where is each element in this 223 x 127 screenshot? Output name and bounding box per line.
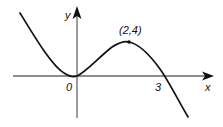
function-curve [20, 13, 188, 117]
origin-label: 0 [66, 81, 73, 93]
root-label-3: 3 [155, 81, 162, 93]
local-max-point [127, 40, 131, 44]
x-axis-label: x [204, 81, 211, 93]
cubic-function-graph: y x 0 3 (2,4) [0, 0, 223, 127]
local-max-label: (2,4) [119, 24, 142, 36]
y-axis-label: y [64, 9, 72, 21]
